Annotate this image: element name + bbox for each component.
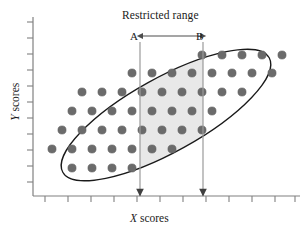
figure-title: Restricted range (122, 10, 199, 22)
x-axis-label-variable: X (130, 212, 137, 224)
range-marker-label-b: B (196, 31, 203, 42)
y-axis-label: Y scores (10, 70, 22, 134)
range-marker-label-a: A (130, 31, 138, 42)
restricted-range-scatter-figure: Restricted range A B X scores Y scores (0, 0, 308, 238)
y-axis-ticks (27, 22, 33, 182)
y-axis-label-variable: Y (9, 114, 21, 120)
x-axis-ticks (45, 196, 295, 202)
y-axis-label-text: scores (9, 83, 21, 115)
x-axis-label: X scores (130, 213, 169, 225)
plot-canvas (0, 0, 308, 238)
x-axis-label-text: scores (137, 212, 169, 224)
